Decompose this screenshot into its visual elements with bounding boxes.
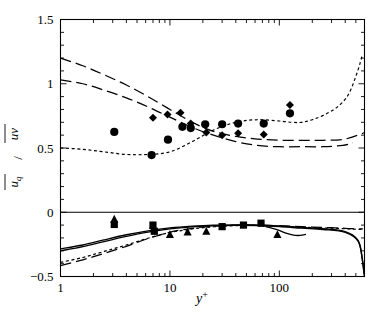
y-tick-label: −0.5 (30, 269, 54, 284)
marker-circle (286, 109, 294, 117)
marker-circle (110, 128, 118, 136)
marker-square (240, 222, 247, 229)
marker-circle (147, 151, 155, 159)
marker-square (257, 220, 264, 227)
y-tick-label: 0 (47, 205, 54, 220)
y-axis-title-slash: / (10, 156, 25, 160)
marker-circle (234, 119, 242, 127)
marker-square (219, 223, 226, 230)
y-tick-label: 0.5 (37, 141, 53, 156)
y-tick-label: 1.5 (37, 12, 53, 27)
chart-figure: −0.500.511.5 110100 y+ uq / uv (0, 0, 376, 316)
marker-circle (260, 119, 268, 127)
marker-circle (201, 120, 209, 128)
x-tick-label: 100 (270, 280, 290, 295)
marker-circle (164, 136, 172, 144)
marker-circle (178, 123, 186, 131)
y-tick-label: 1 (47, 76, 54, 91)
x-axis-title-superscript: + (202, 289, 208, 300)
marker-square (151, 228, 158, 235)
marker-square (149, 222, 156, 229)
y-axis-title-numerator-subscript: q (13, 176, 23, 181)
y-axis-title-denominator: uv (6, 128, 21, 141)
x-tick-label: 10 (163, 280, 176, 295)
x-tick-label: 1 (57, 280, 64, 295)
figure-background (0, 0, 376, 316)
marker-square (111, 221, 118, 228)
marker-circle (218, 120, 226, 128)
